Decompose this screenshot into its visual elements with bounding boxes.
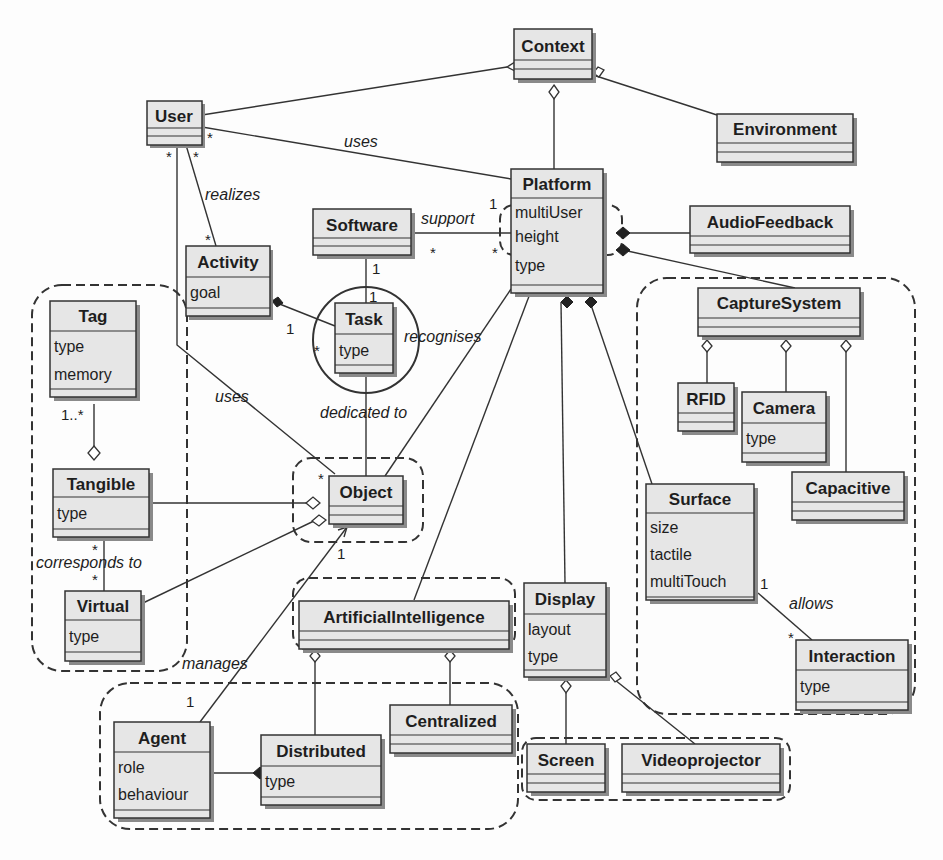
class-tag[interactable]: Tag type memory bbox=[50, 301, 140, 401]
composition-diamond-platform-audio bbox=[616, 227, 630, 239]
mult-surface-one: 1 bbox=[760, 575, 768, 592]
class-name: Platform bbox=[523, 175, 592, 194]
mult-tag-one-many: 1..* bbox=[61, 406, 84, 423]
class-name: Tag bbox=[79, 307, 108, 326]
mult-interaction-star: * bbox=[788, 629, 794, 646]
class-name: ArtificialIntelligence bbox=[323, 608, 485, 627]
assoc-label-manages: manages bbox=[182, 655, 248, 672]
class-user[interactable]: User bbox=[147, 101, 205, 148]
class-environment[interactable]: Environment bbox=[717, 114, 857, 166]
mult-user-object: * bbox=[166, 148, 172, 165]
assoc-label-recognises: recognises bbox=[404, 328, 481, 345]
class-attr: type bbox=[54, 338, 84, 355]
class-attr: layout bbox=[528, 621, 571, 638]
mult-object-star: * bbox=[318, 470, 324, 487]
class-attr: type bbox=[57, 505, 87, 522]
class-name: Software bbox=[326, 216, 398, 235]
class-object[interactable]: Object bbox=[329, 476, 407, 528]
mult-tangible-star: * bbox=[92, 541, 98, 558]
class-tangible[interactable]: Tangible type bbox=[53, 469, 153, 541]
class-name: AudioFeedback bbox=[707, 213, 834, 232]
aggregation-diamond-object-virtual bbox=[312, 515, 326, 526]
class-attr: memory bbox=[54, 366, 112, 383]
class-name: Surface bbox=[669, 490, 731, 509]
class-interaction[interactable]: Interaction type bbox=[796, 640, 912, 714]
class-name: Environment bbox=[733, 120, 837, 139]
class-activity[interactable]: Activity goal bbox=[186, 246, 273, 320]
class-virtual[interactable]: Virtual type bbox=[65, 591, 145, 665]
class-videoprojector[interactable]: Videoprojector bbox=[622, 744, 784, 796]
aggregation-diamond-display-screen bbox=[561, 680, 571, 693]
class-context[interactable]: Context bbox=[514, 29, 596, 83]
class-surface[interactable]: Surface size tactile multiTouch bbox=[646, 484, 758, 604]
class-attr: type bbox=[528, 648, 558, 665]
class-attr: multiUser bbox=[515, 204, 583, 221]
composition-diamond-activity-task bbox=[272, 297, 283, 307]
line-user-context bbox=[202, 67, 507, 115]
mult-object-one: 1 bbox=[337, 545, 345, 562]
class-rfid[interactable]: RFID bbox=[678, 383, 738, 435]
class-artificialintelligence[interactable]: ArtificialIntelligence bbox=[299, 601, 513, 653]
class-attr: multiTouch bbox=[650, 573, 726, 590]
aggregation-diamond-capture-capacitive bbox=[841, 340, 851, 352]
class-attr: type bbox=[746, 430, 776, 447]
mult-platform-star: * bbox=[492, 244, 498, 261]
mult-task-star: * bbox=[314, 342, 320, 359]
class-name: Context bbox=[521, 37, 585, 56]
class-name: Camera bbox=[753, 399, 816, 418]
class-attr: type bbox=[800, 678, 830, 695]
composition-diamond-platform-surface bbox=[585, 296, 597, 308]
aggregation-diamond-object-tangible bbox=[306, 497, 320, 509]
aggregation-diamond-tangible-tag bbox=[88, 446, 100, 460]
mult-activity-one: 1 bbox=[286, 320, 294, 337]
class-name: Interaction bbox=[809, 647, 896, 666]
class-software[interactable]: Software bbox=[313, 209, 415, 259]
class-name: Task bbox=[345, 310, 383, 329]
class-attr: goal bbox=[190, 284, 220, 301]
assoc-label-support: support bbox=[421, 210, 475, 227]
class-name: Videoprojector bbox=[641, 751, 761, 770]
class-name: CaptureSystem bbox=[717, 294, 842, 313]
composition-diamond-platform-capture bbox=[616, 244, 630, 256]
class-name: Capacitive bbox=[805, 479, 890, 498]
composition-diamond-platform-display bbox=[561, 296, 573, 308]
class-display[interactable]: Display layout type bbox=[524, 583, 610, 681]
class-name: User bbox=[155, 107, 193, 126]
class-attr: type bbox=[515, 257, 545, 274]
uml-class-diagram: uses realizes support recognises uses de… bbox=[0, 0, 943, 860]
line-context-environment bbox=[593, 75, 717, 115]
class-camera[interactable]: Camera type bbox=[742, 392, 830, 466]
class-name: Screen bbox=[538, 751, 595, 770]
mult-software-star: * bbox=[430, 244, 436, 261]
mult-agent-one: 1 bbox=[186, 693, 194, 710]
class-name: RFID bbox=[686, 390, 726, 409]
class-name: Tangible bbox=[67, 475, 136, 494]
class-name: Agent bbox=[138, 729, 187, 748]
class-capturesystem[interactable]: CaptureSystem bbox=[698, 288, 864, 340]
class-platform[interactable]: Platform multiUser height type bbox=[511, 169, 607, 297]
class-capacitive[interactable]: Capacitive bbox=[792, 472, 908, 524]
assoc-label-realizes: realizes bbox=[205, 186, 260, 203]
class-attr: role bbox=[118, 759, 145, 776]
assoc-label-uses-object: uses bbox=[215, 388, 249, 405]
mult-software-one: 1 bbox=[372, 260, 380, 277]
line-platform-surface bbox=[590, 302, 652, 484]
assoc-label-corresponds-to: corresponds to bbox=[36, 554, 142, 571]
class-name: Activity bbox=[197, 253, 259, 272]
mult-virtual-star: * bbox=[92, 571, 98, 588]
aggregation-diamond-capture-rfid bbox=[702, 340, 712, 352]
class-centralized[interactable]: Centralized bbox=[390, 705, 516, 757]
class-name: Object bbox=[340, 483, 393, 502]
line-platform-object bbox=[385, 289, 511, 476]
class-name: Display bbox=[535, 590, 596, 609]
class-name: Distributed bbox=[276, 742, 366, 761]
mult-user-activity: * bbox=[193, 148, 199, 165]
line-platform-display bbox=[561, 302, 565, 583]
class-audiofeedback[interactable]: AudioFeedback bbox=[690, 206, 854, 257]
class-task[interactable]: Task type bbox=[335, 303, 397, 377]
class-attr: behaviour bbox=[118, 786, 189, 803]
class-agent[interactable]: Agent role behaviour bbox=[114, 722, 214, 822]
aggregation-diamond-display-videoprojector bbox=[610, 672, 621, 682]
class-screen[interactable]: Screen bbox=[527, 744, 609, 796]
class-distributed[interactable]: Distributed type bbox=[261, 735, 385, 809]
